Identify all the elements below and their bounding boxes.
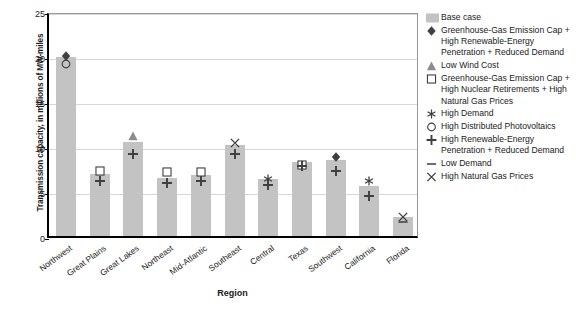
legend-marker-diamond-icon <box>424 26 441 37</box>
x-tick-label: California <box>343 243 378 272</box>
legend-marker-dash-icon <box>424 159 441 170</box>
legend-item[interactable]: High Distributed Photovoltaics <box>424 121 576 133</box>
legend-label: Low Demand <box>441 158 576 169</box>
legend-label: High Natural Gas Prices <box>441 171 576 182</box>
y-tick-label: 15 <box>35 99 45 109</box>
bar-southeast <box>225 145 245 236</box>
legend-item[interactable]: Low Demand <box>424 158 576 170</box>
legend-item[interactable]: High Natural Gas Prices <box>424 171 576 183</box>
y-tick-mark <box>45 239 49 240</box>
x-tick-label: Southwest <box>306 243 344 274</box>
legend-item[interactable]: Greenhouse-Gas Emission Cap + High Renew… <box>424 25 576 59</box>
plot-inner: 0510152025 <box>49 14 417 236</box>
y-tick-label: 10 <box>35 144 45 154</box>
bar-florida <box>393 217 413 236</box>
bar-great-lakes <box>123 142 143 236</box>
gridline <box>49 59 417 60</box>
y-tick-mark <box>45 194 49 195</box>
x-axis-title: Region <box>47 288 418 298</box>
marker-triangle <box>128 130 139 141</box>
legend-label: Greenhouse-Gas Emission Cap + High Renew… <box>441 25 576 59</box>
chart-figure: Transmission capacity, in millions of MW… <box>0 0 576 311</box>
bar-northeast <box>157 178 177 236</box>
legend-label: High Demand <box>441 108 576 119</box>
legend-marker-asterisk-icon <box>424 109 441 120</box>
y-tick-mark <box>45 59 49 60</box>
bar-texas <box>292 162 312 236</box>
legend-item[interactable]: Greenhouse-Gas Emission Cap + High Nucle… <box>424 73 576 107</box>
x-tick-label: Southeast <box>206 243 242 273</box>
x-tick-label: Central <box>248 243 276 267</box>
legend-marker-square-icon <box>424 74 441 85</box>
marker-square <box>162 167 173 178</box>
bar-great-plains <box>90 174 110 236</box>
y-tick-mark <box>45 149 49 150</box>
y-tick-mark <box>45 104 49 105</box>
bar-california <box>359 186 379 236</box>
bar-mid-atlantic <box>191 175 211 236</box>
legend-label: Base case <box>441 12 576 23</box>
y-axis-title: Transmission capacity, in millions of MW… <box>36 0 45 248</box>
y-tick-label: 25 <box>35 9 45 19</box>
x-tick-label: Mid-Atlantic <box>167 243 208 277</box>
legend-marker-bar-icon <box>424 13 441 24</box>
y-tick-label: 5 <box>40 189 45 199</box>
legend-marker-triangle-icon <box>424 61 441 72</box>
legend-item[interactable]: Base case <box>424 12 576 24</box>
legend-label: Greenhouse-Gas Emission Cap + High Nucle… <box>441 73 576 107</box>
legend-item[interactable]: High Demand <box>424 108 576 120</box>
legend-marker-x-icon <box>424 172 441 183</box>
legend-item[interactable]: High Renewable-Energy Penetration + Redu… <box>424 134 576 156</box>
legend-label: High Distributed Photovoltaics <box>441 121 576 132</box>
y-tick-label: 0 <box>40 234 45 244</box>
y-tick-label: 20 <box>35 54 45 64</box>
x-tick-label: Florida <box>384 243 411 266</box>
plot-area: 0510152025 <box>47 13 418 238</box>
bar-central <box>258 179 278 236</box>
legend-label: High Renewable-Energy Penetration + Redu… <box>441 134 576 156</box>
legend-label: Low Wind Cost <box>441 60 576 71</box>
bar-southwest <box>326 160 346 236</box>
legend-marker-plus-icon <box>424 135 441 146</box>
bar-northwest <box>56 57 76 236</box>
legend-marker-circle-icon <box>424 122 441 133</box>
chart-legend: Base caseGreenhouse-Gas Emission Cap + H… <box>424 12 576 184</box>
x-tick-label: Texas <box>286 243 310 264</box>
gridline <box>49 104 417 105</box>
gridline <box>49 14 417 15</box>
legend-item[interactable]: Low Wind Cost <box>424 60 576 72</box>
y-tick-mark <box>45 14 49 15</box>
